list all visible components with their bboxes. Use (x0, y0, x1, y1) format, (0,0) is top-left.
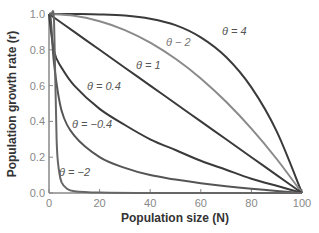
x-tick-label: 40 (144, 197, 156, 209)
theta-logistic-chart: 0.00.20.40.60.81.0020406080100 θ = 4 θ −… (0, 0, 319, 233)
x-axis-label: Population size (N) (121, 211, 229, 225)
label-theta-neg0.4: θ = −0.4 (72, 118, 112, 130)
y-tick-label: 0.8 (30, 44, 45, 56)
x-tick-label: 80 (245, 197, 257, 209)
curve-labels: θ = 4 θ − 2 θ = 1 θ = 0.4 θ = −0.4 θ = −… (59, 25, 247, 178)
y-tick-label: 0.2 (30, 151, 45, 163)
x-tick-label: 20 (93, 197, 105, 209)
x-tick-label: 0 (46, 197, 52, 209)
x-tick-label: 60 (195, 197, 207, 209)
y-tick-label: 0.4 (30, 115, 45, 127)
y-tick-label: 1.0 (30, 8, 45, 20)
label-theta-4: θ = 4 (222, 25, 247, 37)
label-theta-0.4: θ = 0.4 (87, 80, 121, 92)
x-tick-label: 100 (293, 197, 311, 209)
y-tick-label: 0.6 (30, 80, 45, 92)
label-theta-1: θ = 1 (136, 59, 161, 71)
label-theta-neg2: θ = −2 (59, 166, 90, 178)
label-theta-2: θ − 2 (166, 36, 191, 48)
y-axis-label: Population growth rate (r) (5, 31, 19, 178)
y-tick-label: 0.0 (30, 187, 45, 199)
